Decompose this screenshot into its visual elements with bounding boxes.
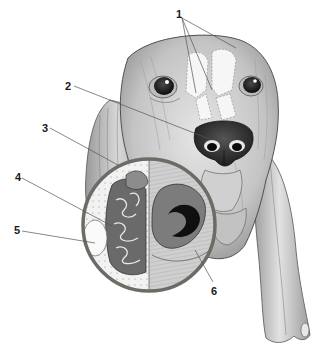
callout-label-3: 3 bbox=[42, 123, 48, 134]
callout-label-1: 1 bbox=[176, 9, 182, 20]
nasal-cross-section-inset bbox=[83, 159, 215, 291]
callout-label-2: 2 bbox=[65, 81, 71, 92]
right-eye bbox=[239, 76, 263, 96]
illustration-canvas bbox=[0, 0, 331, 358]
callout-label-6: 6 bbox=[211, 286, 217, 297]
dog-nose-anatomy-illustration: 1 2 3 4 5 6 bbox=[0, 0, 331, 358]
callout-label-4: 4 bbox=[15, 172, 21, 183]
callout-label-5: 5 bbox=[14, 225, 20, 236]
